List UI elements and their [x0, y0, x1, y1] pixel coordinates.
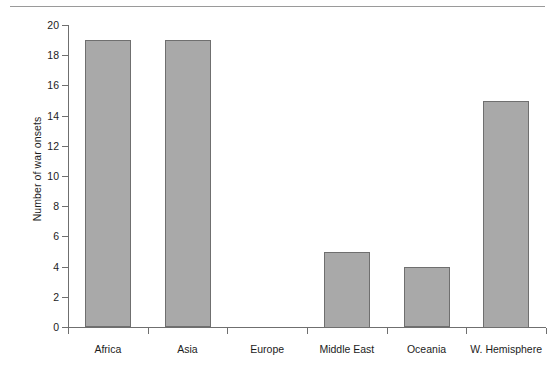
y-axis-tick-label: 18: [47, 49, 59, 61]
x-axis-label: Middle East: [319, 343, 374, 355]
x-axis-label: Oceania: [407, 343, 446, 355]
bar: [165, 40, 211, 327]
y-axis-title: Number of war onsets: [31, 69, 43, 269]
x-axis-label: Asia: [177, 343, 197, 355]
y-axis-tick: [62, 236, 68, 237]
y-axis-tick-label: 12: [47, 140, 59, 152]
bar: [85, 40, 131, 327]
x-axis-tick: [227, 328, 228, 334]
y-axis-tick-label: 14: [47, 110, 59, 122]
bar: [324, 252, 370, 328]
y-axis-tick: [62, 116, 68, 117]
y-axis-tick-label: 0: [53, 321, 59, 333]
y-axis-tick: [62, 25, 68, 26]
y-axis-tick-label: 2: [53, 291, 59, 303]
x-axis-tick: [466, 328, 467, 334]
x-axis-tick: [307, 328, 308, 334]
x-axis-label: Africa: [94, 343, 121, 355]
plot-area: 02468101214161820 AfricaAsiaEuropeMiddle…: [68, 25, 546, 327]
y-axis-tick: [62, 176, 68, 177]
y-axis-tick-label: 8: [53, 200, 59, 212]
y-axis-tick: [62, 206, 68, 207]
y-axis-tick: [62, 55, 68, 56]
x-axis-tick: [148, 328, 149, 334]
y-axis-tick-label: 20: [47, 19, 59, 31]
x-axis-label: Europe: [250, 343, 284, 355]
bar-chart-figure: Number of war onsets 02468101214161820 A…: [0, 0, 556, 380]
y-axis-tick: [62, 146, 68, 147]
y-axis-tick: [62, 85, 68, 86]
bar: [483, 101, 529, 328]
y-axis-tick-label: 16: [47, 79, 59, 91]
y-axis-tick-label: 10: [47, 170, 59, 182]
y-axis-tick: [62, 267, 68, 268]
x-axis-tick: [68, 328, 69, 334]
y-axis-tick: [62, 297, 68, 298]
y-axis-tick-label: 4: [53, 261, 59, 273]
x-axis-label: W. Hemisphere: [470, 343, 542, 355]
bar: [404, 267, 450, 327]
y-axis-line: [68, 25, 69, 327]
x-axis-tick: [387, 328, 388, 334]
y-axis-tick-label: 6: [53, 230, 59, 242]
x-axis-tick: [546, 328, 547, 334]
top-horizontal-rule: [10, 6, 545, 7]
